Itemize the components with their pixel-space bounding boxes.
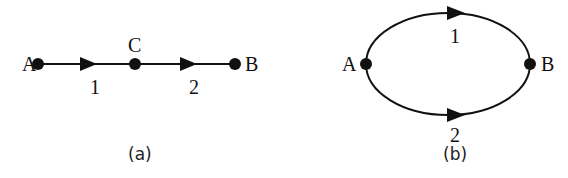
figure-a: A C B 1 2 (a) [22, 34, 258, 164]
node-a-dot [360, 58, 372, 70]
node-c-dot [129, 58, 141, 70]
caption-b: (b) [443, 144, 467, 164]
arrow-right-icon [80, 57, 97, 71]
arrow-right-icon [447, 108, 465, 122]
node-b-dot [524, 58, 536, 70]
node-label-b: B [541, 53, 554, 75]
figure-b: A B 1 2 (b) [342, 6, 554, 164]
arrow-right-icon [447, 6, 465, 20]
arrow-right-icon [180, 57, 197, 71]
diagram-canvas: A C B 1 2 (a) A B 1 2 (b) [0, 0, 568, 178]
node-b-dot [229, 58, 241, 70]
node-label-c: C [128, 34, 141, 56]
node-label-b: B [245, 53, 258, 75]
edge-label-2: 2 [450, 124, 460, 146]
edge-label-1: 1 [90, 76, 100, 98]
edge-label-1: 1 [450, 25, 460, 47]
caption-a: (a) [128, 144, 152, 164]
edge-ellipse-b [366, 13, 530, 115]
edge-label-2: 2 [189, 76, 199, 98]
node-label-a: A [342, 53, 357, 75]
node-label-a: A [22, 53, 37, 75]
